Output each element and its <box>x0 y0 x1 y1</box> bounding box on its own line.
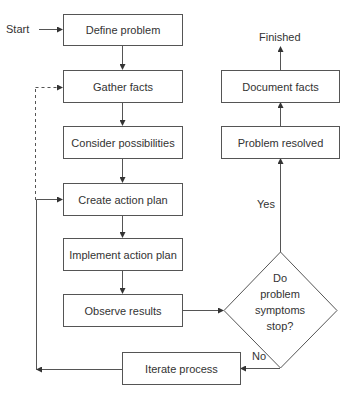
node-label: Document facts <box>242 81 318 93</box>
node-label: Problem resolved <box>238 137 324 149</box>
node-label: Gather facts <box>93 81 153 93</box>
decision-line: stop? <box>240 318 320 334</box>
node-problem-resolved: Problem resolved <box>221 126 340 159</box>
node-label: Implement action plan <box>69 249 177 261</box>
node-label: Observe results <box>84 305 161 317</box>
decision-line: problem <box>240 286 320 302</box>
start-label: Start <box>6 23 29 35</box>
flowchart: Start Finished Yes No Define problem Gat… <box>0 0 351 397</box>
node-observe-results: Observe results <box>63 294 183 327</box>
node-create-action-plan: Create action plan <box>63 183 183 216</box>
node-iterate-process: Iterate process <box>122 352 241 385</box>
node-gather-facts: Gather facts <box>63 70 183 103</box>
yes-label: Yes <box>257 198 275 210</box>
decision-line: Do <box>240 270 320 286</box>
node-label: Create action plan <box>78 194 167 206</box>
node-define-problem: Define problem <box>63 14 183 46</box>
finished-label: Finished <box>259 31 301 43</box>
node-document-facts: Document facts <box>221 70 340 103</box>
node-label: Define problem <box>86 24 161 36</box>
decision-line: symptoms <box>240 302 320 318</box>
node-consider-possibilities: Consider possibilities <box>63 126 183 159</box>
decision-text: Do problem symptoms stop? <box>240 270 320 334</box>
node-label: Iterate process <box>145 363 218 375</box>
node-implement-action-plan: Implement action plan <box>63 238 183 271</box>
no-label: No <box>252 350 266 362</box>
node-label: Consider possibilities <box>71 137 174 149</box>
